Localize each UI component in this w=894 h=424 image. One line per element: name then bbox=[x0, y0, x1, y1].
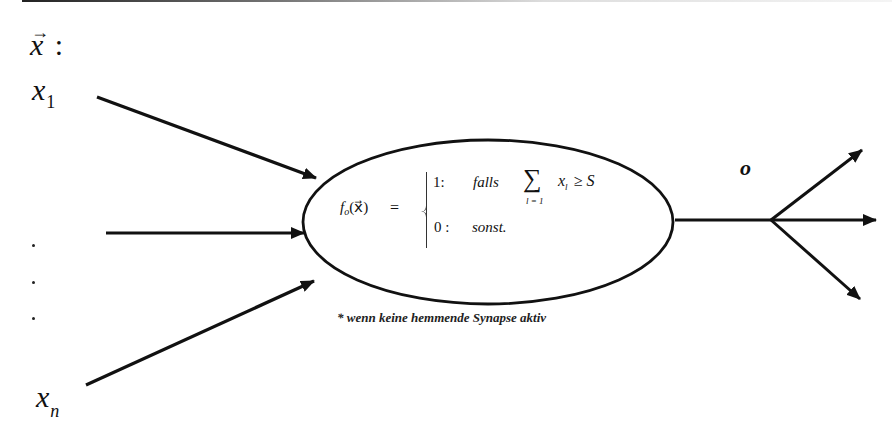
function-arg: (x⃗) bbox=[349, 199, 368, 215]
input-xn-sub: n bbox=[50, 401, 59, 421]
vector-colon: : bbox=[55, 28, 63, 61]
case-brace bbox=[426, 172, 427, 248]
sum-symbol: ∑ bbox=[523, 166, 542, 192]
sum-expression: xl≥ S bbox=[558, 172, 594, 192]
threshold-comparison: ≥ S bbox=[574, 172, 595, 189]
input-arrow-xn bbox=[86, 281, 314, 385]
input-xn-base: x bbox=[36, 380, 49, 413]
sum-index: l = 1 bbox=[526, 196, 544, 206]
ellipsis-dot-1 bbox=[32, 244, 35, 247]
case-true-condition: falls bbox=[473, 174, 499, 191]
function-name: fo(x⃗) bbox=[340, 198, 368, 217]
output-arrow-down bbox=[771, 220, 860, 299]
input-label-x1: x1 bbox=[32, 73, 55, 113]
footnote: * wenn keine hemmende Synapse aktiv bbox=[337, 310, 546, 326]
ellipsis-dot-3 bbox=[32, 317, 35, 320]
case-false-value: 0 : bbox=[434, 219, 449, 236]
input-x1-sub: 1 bbox=[46, 92, 55, 112]
ellipsis-dot-2 bbox=[32, 281, 35, 284]
equals-sign: = bbox=[390, 199, 399, 217]
output-arrow-up bbox=[771, 150, 862, 220]
input-x1-base: x bbox=[32, 73, 45, 106]
vector-arrow-icon: → bbox=[31, 22, 49, 43]
input-label-xn: xn bbox=[36, 380, 59, 422]
output-label: o bbox=[740, 155, 751, 181]
case-false-condition: sonst. bbox=[472, 219, 507, 236]
input-arrow-x1 bbox=[97, 97, 316, 178]
neuron-diagram-graphic bbox=[0, 0, 894, 424]
sum-term-sub: l bbox=[565, 182, 568, 192]
case-true-value: 1: bbox=[433, 174, 445, 191]
input-vector-label: → x : bbox=[30, 28, 63, 62]
